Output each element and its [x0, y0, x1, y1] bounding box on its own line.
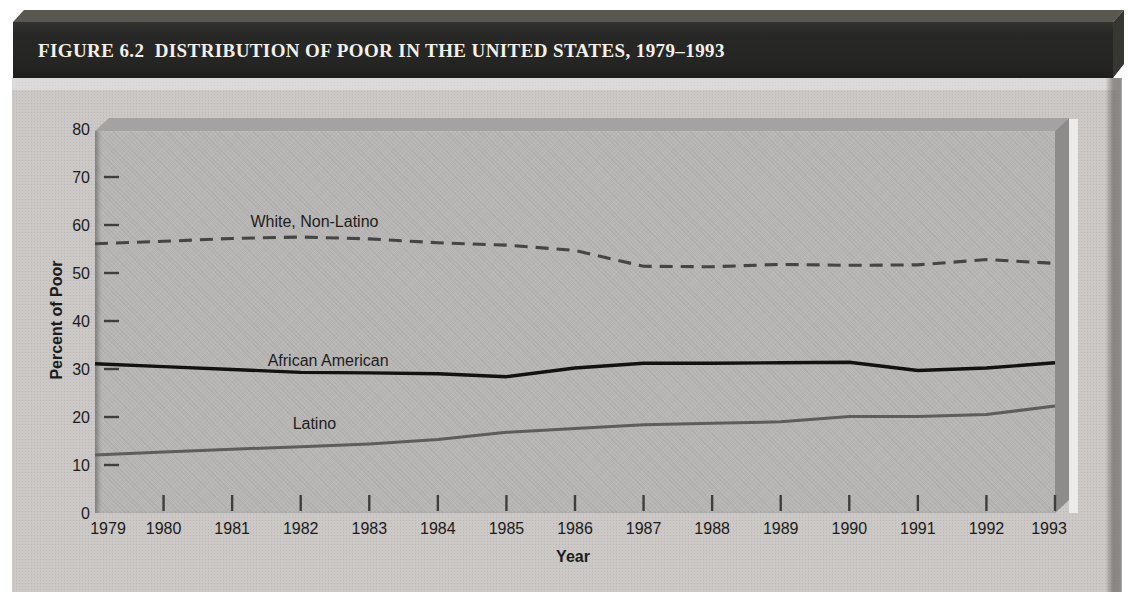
x-tick-label: 1981: [214, 520, 250, 537]
y-tick-label: 30: [72, 361, 90, 378]
y-tick-label: 10: [72, 457, 90, 474]
x-tick-label: 1988: [694, 520, 730, 537]
x-tick-label: 1983: [351, 520, 387, 537]
x-tick-label: 1986: [557, 520, 593, 537]
label-white-non-latino: White, Non-Latino: [250, 213, 378, 230]
y-tick-label: 0: [81, 505, 90, 522]
x-tick-label: 1987: [626, 520, 662, 537]
x-tick-label: 1982: [283, 520, 319, 537]
figure-6-2: FIGURE 6.2 DISTRIBUTION OF POOR IN THE U…: [0, 0, 1137, 603]
label-african-american: African American: [268, 352, 389, 369]
x-axis-title: Year: [556, 548, 590, 566]
y-tick-label: 70: [72, 169, 90, 186]
x-tick-label: 1992: [969, 520, 1005, 537]
chart-svg: 0102030405060708019791980198119821983198…: [0, 0, 1137, 603]
x-tick-label: 1984: [420, 520, 456, 537]
line-white-non-latino: [95, 237, 1055, 267]
x-tick-label: 1979: [90, 520, 126, 537]
y-tick-label: 60: [72, 217, 90, 234]
y-tick-label: 50: [72, 265, 90, 282]
x-tick-label: 1990: [831, 520, 867, 537]
y-tick-label: 80: [72, 121, 90, 138]
x-tick-label: 1991: [900, 520, 936, 537]
y-tick-label: 40: [72, 313, 90, 330]
x-tick-label: 1980: [146, 520, 182, 537]
y-axis-title: Percent of Poor: [48, 260, 66, 379]
label-latino: Latino: [293, 415, 337, 432]
x-tick-label: 1993: [1031, 520, 1067, 537]
x-tick-label: 1985: [489, 520, 525, 537]
y-tick-label: 20: [72, 409, 90, 426]
line-african-american: [95, 362, 1055, 376]
line-latino: [95, 406, 1055, 455]
x-tick-label: 1989: [763, 520, 799, 537]
